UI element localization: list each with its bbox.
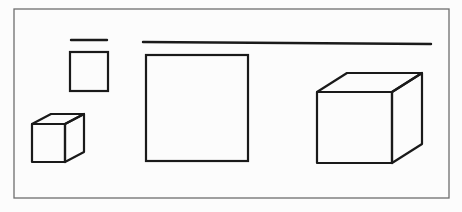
- horizontal-lines: [71, 40, 431, 44]
- line-drawing: [0, 0, 462, 212]
- small-cube-front-face: [32, 124, 65, 162]
- small-cube: [32, 114, 84, 162]
- small-square: [70, 52, 108, 91]
- cubes-group: [32, 73, 422, 163]
- large-cube: [317, 73, 422, 163]
- large-cube-front-face: [317, 92, 392, 163]
- figure-frame: [14, 9, 449, 198]
- large-cube-side-face: [392, 73, 422, 163]
- long-line: [143, 42, 431, 44]
- figure-container: [0, 0, 462, 212]
- small-cube-side-face: [65, 114, 84, 162]
- squares-group: [70, 52, 248, 161]
- large-square: [146, 55, 248, 161]
